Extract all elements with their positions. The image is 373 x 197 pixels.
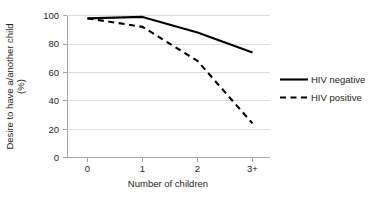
line-chart: 100 80 60 40 20 0 0 1 2 3+ Number of chi…	[0, 0, 373, 197]
legend-label-hiv-positive: HIV positive	[311, 92, 362, 103]
x-axis-title: Number of children	[128, 178, 208, 189]
y-axis-title: Desire to have a/another child	[4, 23, 15, 149]
y-tick-label-0: 0	[54, 152, 59, 163]
x-tick-label-3p: 3+	[247, 163, 258, 174]
y-tick-label-20: 20	[48, 124, 59, 135]
y-axis-title-unit: (%)	[15, 79, 26, 94]
y-tick-label-80: 80	[48, 38, 59, 49]
y-tick-label-100: 100	[43, 10, 59, 21]
x-tick-label-0: 0	[85, 163, 90, 174]
chart-container: 100 80 60 40 20 0 0 1 2 3+ Number of chi…	[0, 0, 373, 197]
x-tick-label-1: 1	[140, 163, 145, 174]
y-tick-label-40: 40	[48, 95, 59, 106]
y-tick-label-60: 60	[48, 67, 59, 78]
legend-label-hiv-negative: HIV negative	[311, 74, 365, 85]
x-tick-label-2: 2	[195, 163, 200, 174]
